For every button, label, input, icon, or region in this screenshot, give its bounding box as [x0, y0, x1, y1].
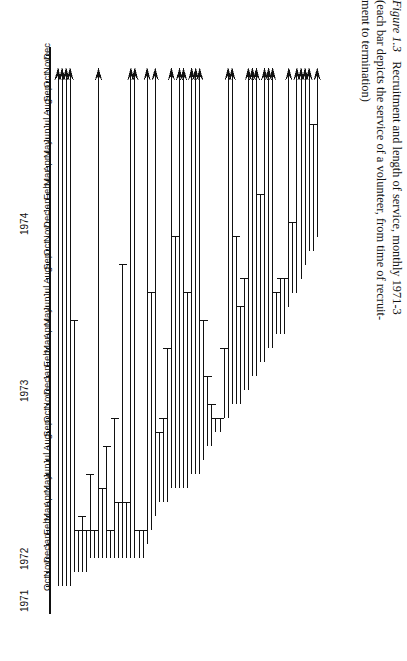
axis-tick-label: Dec — [42, 43, 52, 60]
bar — [86, 474, 94, 558]
bar — [123, 502, 131, 558]
axis-tick-label: Oct — [42, 408, 52, 423]
bars-group — [55, 68, 321, 586]
bar — [240, 279, 248, 391]
bar — [261, 68, 267, 362]
bar — [67, 68, 73, 586]
bar — [184, 293, 192, 489]
bar — [155, 432, 163, 502]
bar — [265, 68, 271, 348]
bar — [111, 418, 119, 558]
bar — [253, 68, 259, 376]
bar — [78, 516, 86, 572]
axis-tick-label: Jan — [42, 198, 52, 214]
bar — [229, 68, 235, 404]
bar — [144, 68, 150, 544]
bar — [302, 68, 308, 265]
bar — [269, 68, 275, 348]
figure-subtitle-line1: (each bar depicts the service of a volun… — [374, 0, 388, 320]
figure-subtitle-line2: ment to termination) — [359, 0, 373, 102]
axis-tick-label: Apr — [42, 492, 52, 507]
figure-title: Recruitment and length of service, month… — [390, 61, 404, 315]
axis-tick-label: Jul — [42, 117, 52, 129]
bar — [208, 404, 216, 446]
bar — [200, 321, 208, 461]
axis-tick-label: Jul — [42, 453, 52, 465]
bar — [212, 418, 220, 432]
bar — [163, 348, 171, 502]
axis-tick-label: Mar — [42, 337, 52, 354]
axis-tick-label: Jun — [42, 296, 52, 312]
bar — [99, 488, 107, 558]
bar — [180, 68, 186, 488]
bar — [245, 68, 251, 390]
figure-number: Figure 1.3 — [390, 0, 404, 52]
bar — [55, 68, 61, 586]
bar — [95, 68, 101, 558]
axis-tick-label: Jan — [42, 533, 52, 549]
axis-tick-label: Apr — [42, 157, 52, 172]
axis-tick-label: Jan — [42, 366, 52, 382]
bar — [128, 68, 134, 558]
axis-tick-label: Oct — [42, 73, 52, 88]
bar — [132, 68, 138, 558]
bar — [236, 307, 244, 405]
bar — [249, 68, 255, 376]
bar — [298, 68, 304, 279]
bar — [188, 68, 194, 474]
bar — [63, 68, 69, 586]
bar — [115, 502, 123, 558]
figure-caption: Figure 1.3 Recruitment and length of ser… — [318, 0, 404, 470]
bar — [135, 530, 143, 558]
bar — [273, 293, 281, 335]
bar — [193, 68, 199, 474]
axis-year-label: 1972 — [20, 548, 30, 570]
axis-tick-label: Jun — [42, 128, 52, 144]
bar — [107, 530, 115, 558]
bar — [168, 68, 174, 488]
bar — [204, 376, 212, 446]
bar — [159, 418, 167, 502]
bar — [59, 68, 65, 586]
bar — [277, 279, 285, 335]
bar — [103, 446, 111, 558]
bar — [197, 68, 203, 474]
axis-tick-label: Jun — [42, 464, 52, 480]
axis-year-label: 1974 — [20, 212, 30, 234]
bar — [306, 68, 312, 251]
bar — [289, 223, 297, 293]
axis-tick-label: Apr — [42, 324, 52, 339]
bar — [220, 348, 228, 418]
axis-tick-label: Oct — [42, 241, 52, 256]
axis-year-label: 1971 — [20, 590, 30, 612]
bar — [309, 125, 317, 251]
bar — [171, 237, 179, 489]
bar — [147, 293, 155, 531]
bar — [281, 279, 289, 335]
axis-tick-label: Feb — [42, 351, 52, 368]
bar — [82, 530, 90, 572]
bar — [70, 321, 78, 573]
axis-tick-label: Jul — [42, 285, 52, 297]
bar — [139, 530, 147, 558]
bar — [176, 68, 182, 488]
bar — [232, 237, 240, 405]
bar — [216, 418, 224, 432]
bar — [257, 195, 265, 363]
axis-year-label: 1973 — [20, 380, 30, 402]
bar — [90, 530, 98, 558]
bar — [225, 68, 231, 418]
axis-tick-label: Oct — [42, 576, 52, 591]
bar — [119, 265, 127, 558]
bar — [74, 530, 82, 572]
figure-root: OctNovDecJanFebMarAprMayJunJulAugSepOctN… — [0, 0, 407, 661]
bar — [286, 68, 292, 307]
bar — [294, 68, 300, 293]
